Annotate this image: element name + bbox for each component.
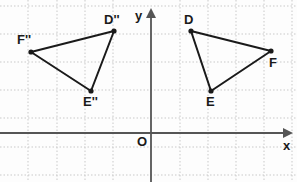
vertex-point-e2	[88, 88, 93, 93]
origin-label: O	[137, 135, 147, 148]
vertex-label-d: D	[184, 13, 193, 26]
grid-vertical-lines	[28, 0, 292, 182]
vertex-label-f: F	[269, 56, 277, 69]
vertex-point-e	[208, 88, 213, 93]
vertex-label-e: E	[206, 95, 215, 108]
triangle-d2e2f2	[28, 28, 116, 93]
coordinate-plane-figure: D'' E'' F'' D E F y x O	[0, 0, 297, 182]
triangle-def	[188, 28, 273, 93]
vertex-label-f2: F''	[17, 33, 31, 46]
grid-horizontal-lines	[0, 6, 297, 175]
vertex-point-d	[188, 28, 193, 33]
coordinate-plane-canvas	[0, 0, 297, 182]
vertex-label-d2: D''	[104, 13, 120, 26]
triangle-d2e2f2-outline	[31, 31, 114, 91]
vertex-point-f2	[28, 49, 33, 54]
vertex-point-f	[268, 48, 273, 53]
vertex-point-d2	[111, 28, 116, 33]
y-axis-label: y	[135, 9, 142, 22]
x-axis-label: x	[283, 139, 290, 152]
triangle-def-outline	[191, 31, 271, 91]
vertex-label-e2: E''	[83, 95, 98, 108]
